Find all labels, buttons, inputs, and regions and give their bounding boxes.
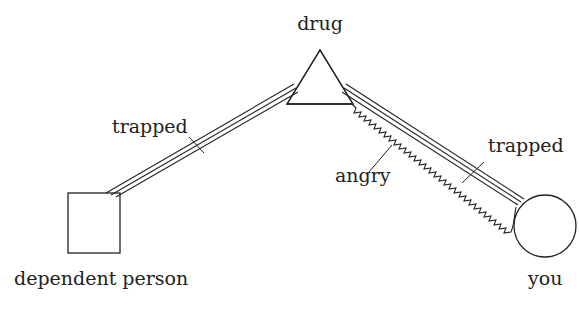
angry-label: angry — [335, 164, 391, 186]
trapped-right-label: trapped — [488, 134, 564, 156]
you-label: you — [527, 267, 562, 289]
dependent-person-square-node — [68, 193, 120, 253]
relationship-diagram: drug trapped trapped angry dependent per… — [0, 0, 579, 311]
trapped-right-leader — [462, 162, 484, 183]
you-circle-node — [514, 195, 576, 257]
drug-triangle-node — [287, 50, 353, 104]
trapped-left-label: trapped — [112, 115, 188, 137]
drug-label: drug — [297, 12, 343, 34]
dependent-person-label: dependent person — [14, 267, 188, 289]
edge-drug-dependent-trapped — [106, 84, 298, 197]
